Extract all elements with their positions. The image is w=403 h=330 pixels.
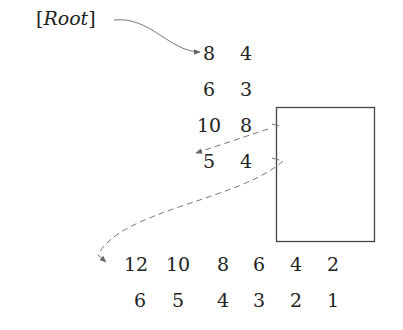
node-2-cell: 8 [233, 116, 259, 135]
dashed-arrow-to-node-3 [98, 161, 283, 262]
node-3-cell: 2 [283, 291, 309, 310]
node-3-cell: 8 [210, 255, 236, 274]
node-3-cell: 5 [165, 291, 191, 310]
root-arrow [114, 20, 200, 52]
root-label: [Root] [36, 9, 96, 28]
node-1-cell: 6 [196, 80, 222, 99]
root-text: Root [43, 7, 88, 29]
node-3-cell: 6 [246, 255, 272, 274]
node-2-cell: 5 [196, 152, 222, 171]
node-1-cell: 4 [233, 44, 259, 63]
diagram-canvas: [Root] 8 4 6 3 10 8 5 4 12 10 8 6 4 2 6 … [0, 0, 403, 330]
root-close-bracket: ] [88, 7, 95, 29]
node-2-cell: 10 [196, 116, 222, 135]
node-3-cell: 4 [210, 291, 236, 310]
node-3-cell: 10 [165, 255, 191, 274]
node-3-cell: 12 [123, 255, 149, 274]
empty-box [277, 108, 375, 242]
node-3-cell: 2 [320, 255, 346, 274]
node-3-cell: 1 [320, 291, 346, 310]
node-3-cell: 3 [246, 291, 272, 310]
node-1-cell: 3 [233, 80, 259, 99]
node-1-cell: 8 [196, 44, 222, 63]
node-2-cell: 4 [233, 152, 259, 171]
node-3-cell: 6 [127, 291, 153, 310]
node-3-cell: 4 [283, 255, 309, 274]
